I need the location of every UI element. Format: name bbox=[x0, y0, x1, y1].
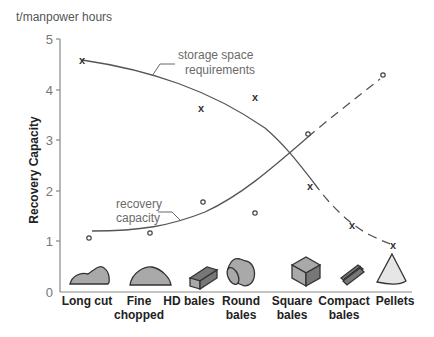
x-marker: x bbox=[198, 102, 205, 114]
long-cut-icon bbox=[70, 267, 109, 284]
unit-label: t/manpower hours bbox=[16, 10, 112, 24]
category-label-compact-bales-1: Compact bbox=[318, 294, 369, 308]
y-tick-label: 0 bbox=[46, 285, 53, 300]
x-marker: x bbox=[79, 54, 86, 66]
y-tick-label: 3 bbox=[46, 133, 53, 148]
o-marker bbox=[201, 200, 205, 204]
y-tick-label: 1 bbox=[46, 234, 53, 249]
storage-label-line2: requirements bbox=[185, 63, 255, 77]
fine-chopped-icon bbox=[130, 267, 171, 285]
y-tick-label: 2 bbox=[46, 184, 53, 199]
chart: t/manpower hours Recovery Capacity 5 4 3… bbox=[0, 0, 434, 337]
x-category-labels: Long cut Fine chopped HD bales Round bal… bbox=[62, 294, 415, 322]
category-label-long-cut: Long cut bbox=[62, 294, 113, 308]
x-marker: x bbox=[307, 180, 314, 192]
o-marker bbox=[306, 132, 310, 136]
o-marker bbox=[148, 231, 152, 235]
pellets-icon bbox=[377, 254, 406, 284]
category-label-fine-chopped-1: Fine bbox=[127, 294, 152, 308]
o-marker bbox=[87, 236, 91, 240]
x-marker: x bbox=[349, 219, 356, 231]
category-label-square-bales-1: Square bbox=[272, 294, 313, 308]
square-bale-icon bbox=[292, 257, 320, 286]
x-marker: x bbox=[390, 239, 397, 251]
y-axis-title: Recovery Capacity bbox=[27, 116, 41, 224]
o-marker bbox=[381, 73, 385, 77]
category-label-round-bales-2: bales bbox=[226, 308, 257, 322]
series-recovery-capacity: recovery capacity bbox=[87, 73, 385, 240]
category-label-pellets: Pellets bbox=[376, 294, 415, 308]
compact-bale-icon bbox=[341, 265, 364, 285]
storage-label-line1: storage space bbox=[178, 48, 254, 62]
o-marker bbox=[253, 211, 257, 215]
category-label-compact-bales-2: bales bbox=[329, 308, 360, 322]
recovery-label-line1: recovery bbox=[116, 197, 162, 211]
category-label-round-bales-1: Round bbox=[222, 294, 260, 308]
category-label-fine-chopped-2: chopped bbox=[114, 308, 164, 322]
category-label-square-bales-2: bales bbox=[277, 308, 308, 322]
y-axis: 5 4 3 2 1 0 bbox=[46, 32, 60, 300]
category-label-hd-bales: HD bales bbox=[163, 294, 215, 308]
recovery-label-line2: capacity bbox=[116, 211, 160, 225]
y-tick-label: 5 bbox=[46, 32, 53, 47]
round-bale-icon bbox=[225, 259, 255, 287]
x-marker: x bbox=[252, 91, 259, 103]
y-tick-label: 4 bbox=[46, 83, 53, 98]
hd-bale-icon bbox=[190, 267, 217, 289]
